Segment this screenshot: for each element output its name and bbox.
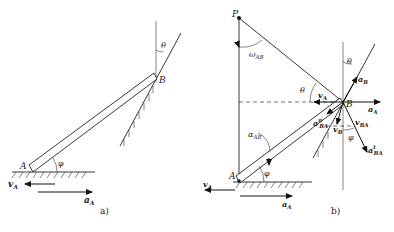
point-a [237, 179, 241, 183]
label-aa-right: aA [368, 104, 377, 115]
label-vba: vBA [355, 117, 369, 128]
label-phi-right: φ [348, 133, 354, 142]
label-a-b: A [228, 171, 236, 181]
label-b-b: B [345, 99, 353, 109]
wall-hatch-b [318, 132, 328, 157]
label-b: B [158, 75, 166, 85]
label-aba-n: anBA [313, 117, 328, 129]
caption-a: a) [100, 206, 109, 216]
label-theta-top: θ [347, 57, 352, 66]
phi-arc-right [343, 128, 354, 130]
mechanics-diagram: A B θ φ vA aA a) [0, 0, 394, 232]
omega-arc [239, 40, 262, 47]
rod-ab-b [236, 98, 344, 183]
ground-hatch-a [12, 172, 86, 178]
label-va-top: vA [318, 90, 327, 101]
panel-b: P A B ωAB αAB θ θ φ φ vA aA aB vBA vB an… [203, 9, 383, 216]
inclined-wall-a [120, 33, 181, 146]
label-va: vA [8, 179, 18, 190]
label-aa: aA [84, 195, 95, 206]
label-alpha: αAB [248, 130, 261, 140]
label-ab: aB [358, 74, 368, 85]
rod-ab-a [29, 73, 157, 172]
label-theta: θ [161, 41, 166, 50]
label-theta-mid: θ [300, 86, 305, 95]
label-a: A [19, 161, 27, 171]
panel-a: A B θ φ vA aA a) [8, 21, 181, 216]
ground-hatch-b [236, 182, 303, 188]
theta-arc-a [156, 50, 163, 52]
line-p-to-b [239, 18, 343, 102]
label-aa-bottom: aA [282, 199, 291, 210]
label-phi-bottom: φ [264, 169, 270, 178]
phi-arc-a [53, 158, 57, 172]
caption-b: b) [331, 206, 340, 216]
theta-arc-mid [310, 83, 316, 102]
label-aba-t: atBA [368, 144, 383, 156]
label-p: P [231, 9, 239, 19]
label-va-bottom: vA [203, 179, 212, 190]
label-phi: φ [58, 159, 64, 168]
label-omega: ωAB [249, 50, 264, 60]
